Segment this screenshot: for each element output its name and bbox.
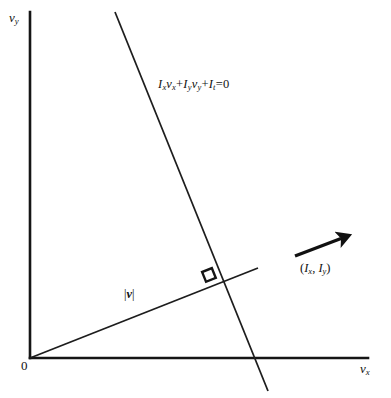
x-axis-label-subscript: x [366,367,370,377]
scan-artifact [0,391,391,398]
diagram-canvas [0,0,391,398]
grad-comma: , [312,261,315,275]
y-axis-label-subscript: y [15,16,19,26]
vmag-close-bar: | [132,287,135,301]
eq-op-equals: = [216,77,223,91]
figure-root: vy vx 0 Ixvx+Iyvy+It=0 (Ix, Iy) |v| [0,0,391,398]
constraint-line [115,12,268,391]
eq-value-zero: 0 [223,77,229,91]
constraint-equation-label: Ixvx+Iyvy+It=0 [158,78,229,91]
y-axis-label: vy [9,11,19,24]
right-angle-marker [202,268,216,282]
grad-close-paren: ) [326,261,330,275]
eq-op-plus-2: + [201,77,208,91]
gradient-arrow-icon [295,239,341,257]
velocity-magnitude-label: |v| [124,288,135,301]
origin-label: 0 [21,359,28,372]
x-axis-label: vx [360,362,370,375]
velocity-ray [30,268,258,358]
gradient-vector-label: (Ix, Iy) [300,262,331,275]
